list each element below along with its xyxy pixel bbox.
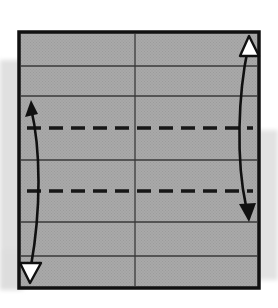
figure-canvas (0, 0, 278, 308)
origami-diagram (0, 0, 278, 308)
scan-shadow-right (258, 130, 278, 280)
